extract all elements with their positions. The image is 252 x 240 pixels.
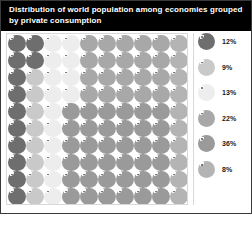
dot-cell	[170, 86, 188, 103]
dot-cell	[8, 69, 26, 86]
legend-item[interactable]: 9%	[198, 59, 249, 76]
legend-item[interactable]: 22%	[198, 110, 249, 127]
dot-cell	[80, 86, 98, 103]
dot-cell	[80, 103, 98, 120]
legend-item-label: 12%	[222, 38, 236, 45]
population-dot	[8, 120, 26, 138]
dot-cell	[80, 171, 98, 188]
dot-cell	[62, 103, 80, 120]
population-dot	[134, 86, 152, 104]
dot-cell	[98, 86, 116, 103]
legend-item[interactable]: 12%	[198, 33, 249, 50]
dot-cell	[152, 52, 170, 69]
dot-cell	[98, 52, 116, 69]
dot-cell	[116, 69, 134, 86]
dot-cell	[170, 52, 188, 69]
legend-swatch-icon	[198, 135, 215, 152]
dot-cell	[62, 120, 80, 137]
population-dot	[44, 52, 62, 70]
population-dot	[8, 52, 26, 70]
dot-cell	[134, 103, 152, 120]
dot-cell	[98, 154, 116, 171]
dot-cell	[152, 137, 170, 154]
dot-cell	[80, 188, 98, 205]
population-dot	[134, 137, 152, 155]
dot-cell	[152, 171, 170, 188]
dot-cell	[80, 35, 98, 52]
population-dot	[26, 35, 44, 53]
population-dot	[80, 35, 98, 53]
population-dot	[8, 69, 26, 87]
population-dot	[98, 103, 116, 121]
dot-cell	[80, 137, 98, 154]
dot-cell	[170, 137, 188, 154]
dot-cell	[44, 69, 62, 86]
dot-cell	[26, 171, 44, 188]
dot-cell	[62, 154, 80, 171]
legend-item[interactable]: 8%	[198, 161, 249, 178]
legend-swatch-icon	[198, 33, 215, 50]
population-dot	[134, 188, 152, 206]
population-dot	[152, 103, 170, 121]
population-dot	[62, 137, 80, 155]
dot-cell	[134, 69, 152, 86]
population-dot	[116, 52, 134, 70]
legend-item[interactable]: 36%	[198, 135, 249, 152]
population-dot	[170, 103, 188, 121]
dot-cell	[62, 52, 80, 69]
population-dot	[8, 86, 26, 104]
dot-cell	[8, 103, 26, 120]
dot-cell	[98, 69, 116, 86]
population-dot	[44, 137, 62, 155]
dot-cell	[134, 154, 152, 171]
dot-cell	[44, 35, 62, 52]
dot-cell	[80, 52, 98, 69]
population-dot	[8, 137, 26, 155]
footer-strip	[1, 207, 251, 213]
population-dot	[26, 154, 44, 172]
dot-cell	[98, 35, 116, 52]
dot-cell	[80, 69, 98, 86]
dot-cell	[26, 35, 44, 52]
population-dot	[116, 137, 134, 155]
population-dot	[80, 103, 98, 121]
dot-cell	[116, 188, 134, 205]
population-dot	[44, 188, 62, 206]
dot-cell	[44, 120, 62, 137]
dot-cell	[152, 154, 170, 171]
population-dot	[62, 69, 80, 87]
population-dot	[98, 69, 116, 87]
dot-cell	[98, 103, 116, 120]
population-dot	[80, 137, 98, 155]
population-dot	[8, 188, 26, 206]
population-dot	[152, 154, 170, 172]
population-dot	[80, 52, 98, 70]
dot-cell	[26, 52, 44, 69]
dot-cell	[26, 188, 44, 205]
population-dot	[62, 52, 80, 70]
population-dot	[116, 188, 134, 206]
dot-cell	[170, 171, 188, 188]
population-dot	[62, 35, 80, 53]
dot-cell	[152, 69, 170, 86]
legend-item-label: 36%	[222, 140, 236, 147]
dot-cell	[8, 137, 26, 154]
population-dot	[134, 69, 152, 87]
legend-item[interactable]: 13%	[198, 84, 249, 101]
dot-cell	[152, 103, 170, 120]
dot-cell	[62, 86, 80, 103]
dot-cell	[44, 103, 62, 120]
dot-cell	[170, 103, 188, 120]
dot-cell	[170, 120, 188, 137]
population-dot	[44, 171, 62, 189]
legend-swatch-icon	[198, 161, 215, 178]
dot-matrix-grid	[8, 35, 188, 205]
legend-swatch-icon	[198, 110, 215, 127]
dot-cell	[134, 35, 152, 52]
population-dot	[62, 188, 80, 206]
legend-item-label: 8%	[222, 166, 232, 173]
dot-cell	[116, 137, 134, 154]
population-dot	[8, 154, 26, 172]
population-dot	[152, 69, 170, 87]
chart-body: 12%9%13%22%36%8%	[1, 31, 251, 213]
